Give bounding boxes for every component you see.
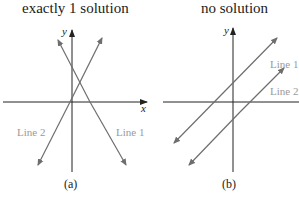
diagram-canvas: x y Line 1 Line 2 y Line 1 Line 2 [0,0,299,201]
panel-b-line-2-label: Line 2 [270,85,298,97]
panel-a-line-1-label: Line 1 [116,126,144,138]
panel-a-y-label: y [61,25,67,37]
panel-b-line-1-label: Line 1 [270,58,298,70]
panel-b-graph: y Line 1 Line 2 [163,24,299,172]
panel-a-line-2-label: Line 2 [17,126,45,138]
panel-a-x-label: x [140,102,146,114]
panel-a-caption: (a) [64,177,77,192]
panel-b-y-label: y [223,24,229,36]
panel-a-graph: x y Line 1 Line 2 [3,25,147,172]
panel-b-caption: (b) [222,177,236,192]
panel-b-line-2 [189,68,284,165]
